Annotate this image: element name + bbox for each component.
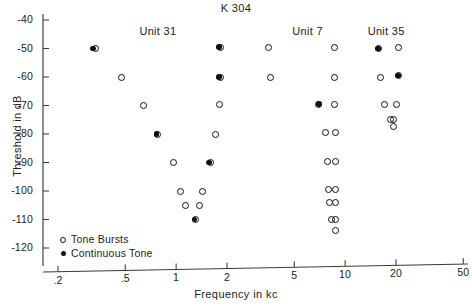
- marker-continuous-tone: [216, 74, 222, 80]
- marker-tone-burst: [199, 188, 206, 195]
- y-tick-label: -50: [0, 42, 33, 54]
- x-tick-label: 50: [447, 266, 472, 278]
- chart-plot-area: K 304 Threshold in dB Frequency in kc -4…: [0, 0, 472, 307]
- unit-annotation: Unit 7: [282, 25, 334, 37]
- x-tick-label: 20: [380, 267, 412, 279]
- y-tick-label: -110: [0, 213, 33, 225]
- y-tick-label: -80: [0, 127, 33, 139]
- marker-tone-burst: [267, 74, 274, 81]
- y-tick-label: -120: [0, 241, 33, 253]
- x-axis-label: Frequency in kc: [0, 288, 472, 300]
- legend-label: Tone Bursts: [71, 233, 129, 245]
- marker-tone-burst: [381, 101, 388, 108]
- marker-tone-burst: [393, 101, 400, 108]
- marker-continuous-tone: [316, 101, 322, 107]
- marker-tone-burst: [331, 74, 338, 81]
- marker-tone-burst: [196, 202, 203, 209]
- marker-tone-burst: [390, 123, 397, 130]
- marker-tone-burst: [395, 44, 402, 51]
- unit-annotation: Unit 31: [132, 25, 184, 37]
- y-tick-label: -70: [0, 99, 33, 111]
- marker-tone-burst: [324, 158, 331, 165]
- x-tick-label: .5: [109, 272, 141, 284]
- legend-open-circle-icon: [60, 237, 66, 243]
- marker-tone-burst: [140, 102, 147, 109]
- legend-label: Continuous Tone: [71, 247, 153, 259]
- marker-tone-burst: [177, 188, 184, 195]
- marker-continuous-tone: [154, 131, 160, 137]
- marker-tone-burst: [212, 131, 219, 138]
- marker-tone-burst: [332, 227, 339, 234]
- y-tick-label: -90: [0, 156, 33, 168]
- marker-tone-burst: [182, 202, 189, 209]
- marker-tone-burst: [332, 129, 339, 136]
- marker-continuous-tone: [206, 160, 212, 166]
- legend-filled-circle-icon: [61, 251, 66, 256]
- x-tick-label: 2: [211, 271, 243, 283]
- x-tick-label: 5: [278, 269, 310, 281]
- marker-tone-burst: [265, 44, 272, 51]
- marker-tone-burst: [332, 158, 339, 165]
- unit-annotation: Unit 35: [360, 25, 412, 37]
- marker-tone-burst: [331, 101, 338, 108]
- x-tick-label: 1: [160, 271, 192, 283]
- marker-tone-burst: [216, 101, 223, 108]
- y-tick-label: -100: [0, 184, 33, 196]
- marker-tone-burst: [332, 216, 339, 223]
- marker-continuous-tone: [90, 46, 96, 52]
- x-tick-label: 10: [329, 268, 361, 280]
- y-tick-label: -60: [0, 70, 33, 82]
- y-tick-label: -40: [0, 13, 33, 25]
- marker-tone-burst: [331, 44, 338, 51]
- marker-tone-burst: [325, 186, 332, 193]
- marker-continuous-tone: [216, 44, 222, 50]
- x-tick-label: .2: [42, 274, 74, 286]
- marker-tone-burst: [118, 74, 125, 81]
